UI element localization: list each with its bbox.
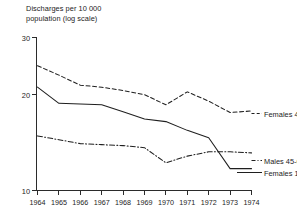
series-line-females-45-64	[38, 66, 252, 113]
x-tick-label-1964: 1964	[30, 198, 46, 207]
x-tick-label-1966: 1966	[72, 198, 88, 207]
x-tick-label-1974: 1974	[244, 198, 260, 207]
series-line-females-15-44	[38, 87, 252, 168]
y-tick-label-30: 30	[22, 34, 30, 43]
x-tick-label-1971: 1971	[179, 198, 195, 207]
x-tick-label-1968: 1968	[115, 198, 131, 207]
y-tick-label-10: 10	[22, 187, 30, 196]
y-axis-ticks	[32, 38, 37, 191]
x-tick-label-1969: 1969	[137, 198, 153, 207]
series-label-leaders	[237, 114, 262, 173]
series-label-females-15-44: Females 15-44	[264, 169, 297, 178]
series-labels: Females 45-64 Males 45-64 Females 15-44	[264, 110, 297, 178]
series-line-males-45-64	[38, 136, 252, 163]
x-axis-ticks	[38, 191, 252, 196]
x-tick-label-1967: 1967	[94, 198, 110, 207]
series-label-males-45-64: Males 45-64	[264, 157, 297, 166]
series-label-females-45-64: Females 45-64	[264, 110, 297, 119]
chart-axes	[37, 37, 253, 191]
x-tick-label-1972: 1972	[201, 198, 217, 207]
y-axis-labels: 30 20 10	[22, 34, 30, 196]
x-axis-labels: 1964 1965 1966 1967 1968 1969 1970 1971 …	[30, 198, 260, 207]
chart-figure: Discharges per 10 000population (log sca…	[0, 0, 297, 216]
y-tick-label-20: 20	[22, 91, 30, 100]
x-tick-label-1965: 1965	[51, 198, 67, 207]
x-tick-label-1970: 1970	[158, 198, 174, 207]
x-tick-label-1973: 1973	[222, 198, 238, 207]
chart-plot-area: 30 20 10 1964 1965 1966 1967 1968 1969	[0, 0, 297, 216]
